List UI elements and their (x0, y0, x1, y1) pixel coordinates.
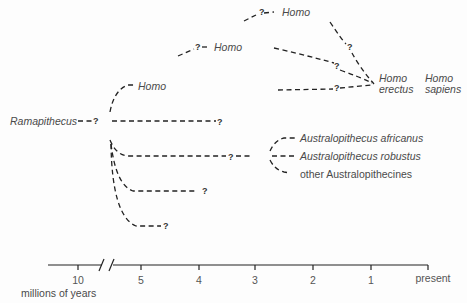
timeline-axis (48, 259, 428, 271)
uncertainty-mark: ? (334, 84, 340, 93)
erectus-line-b (274, 48, 334, 63)
lower-branch-2 (111, 144, 161, 226)
uncertainty-mark: ? (163, 222, 169, 231)
lower-branch-1 (111, 144, 196, 191)
tick-label-3: 3 (252, 274, 258, 286)
erectus-line-a (330, 22, 346, 44)
uncertainty-mark: ? (347, 43, 353, 52)
label-homo-erectus-species: erectus (379, 83, 413, 95)
tick-label-5: 5 (138, 274, 144, 286)
uncertainty-mark: ? (93, 117, 99, 126)
mid-homo-branch (178, 49, 194, 56)
tick-label-2: 2 (310, 274, 316, 286)
tick-label-1: 1 (368, 274, 374, 286)
label-homo-mid: Homo (214, 41, 242, 53)
erectus-line-c (278, 89, 333, 90)
uncertainty-mark: ? (259, 8, 265, 17)
label-homo-early: Homo (138, 80, 166, 92)
uncertainty-mark: ? (195, 43, 201, 52)
uncertainty-mark: ? (334, 62, 340, 71)
label-homo-top: Homo (282, 6, 310, 18)
label-australopithecus-africanus: Australopithecus africanus (300, 132, 423, 144)
evolution-diagram: ? ? ? ? ? ? ? ? ? ? Ramapithecus Homo Ho… (0, 0, 467, 303)
label-homo-sapiens-species: sapiens (425, 83, 461, 95)
tick-label-10: 10 (72, 274, 84, 286)
uncertainty-mark: ? (228, 153, 234, 162)
uncertainty-mark: ? (217, 118, 223, 127)
australopithecus-stem (110, 140, 226, 156)
tick-label-4: 4 (196, 274, 202, 286)
top-homo-branch (244, 15, 256, 21)
early-homo-branch (110, 85, 134, 112)
uncertainty-mark: ? (202, 187, 208, 196)
africanus-branch (270, 138, 296, 151)
axis-unit-label: millions of years (21, 287, 96, 299)
other-branch (270, 160, 290, 173)
tick-label-present: present (415, 272, 450, 284)
label-australopithecus-robustus: Australopithecus robustus (300, 150, 421, 162)
label-ramapithecus: Ramapithecus (10, 115, 77, 127)
label-other-australopithecines: other Australopithecines (300, 168, 412, 180)
